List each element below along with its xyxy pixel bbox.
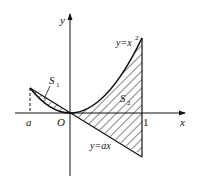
y-axis-label: y: [59, 14, 65, 26]
s2-subscript: 2: [127, 99, 131, 107]
s1-leader-line: [44, 86, 50, 99]
parabola-label-exponent: 2: [135, 34, 139, 42]
line-label: y=ax: [89, 140, 111, 151]
x-axis-label: x: [179, 116, 185, 128]
region-s2-hatched: [70, 38, 142, 155]
parabola-label: y=x: [115, 37, 132, 48]
s1-subscript: 1: [56, 81, 60, 89]
s1-label: S: [49, 74, 55, 86]
diagram-canvas: y x O a 1 y=x 2 y=ax S 1 S 2: [0, 0, 197, 183]
s2-label: S: [120, 92, 126, 104]
a-tick-label: a: [26, 116, 32, 128]
area-diagram: y x O a 1 y=x 2 y=ax S 1 S 2: [0, 0, 197, 183]
origin-label: O: [57, 116, 65, 128]
one-tick-label: 1: [143, 116, 149, 128]
